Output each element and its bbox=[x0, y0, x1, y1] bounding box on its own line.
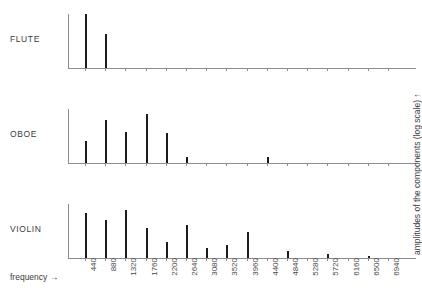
x-tick-label: 5720 bbox=[331, 258, 340, 276]
x-tick-label: 1320 bbox=[129, 258, 138, 276]
panel-label-flute: FLUTE bbox=[10, 34, 40, 44]
x-tick bbox=[85, 68, 86, 71]
x-tick-label: 880 bbox=[109, 258, 118, 271]
panel-label-violin: VIOLIN bbox=[10, 224, 41, 234]
x-tick bbox=[247, 163, 248, 166]
spectrum-bar bbox=[166, 133, 168, 163]
x-tick bbox=[267, 68, 268, 71]
x-tick bbox=[247, 68, 248, 71]
spectrum-bar bbox=[125, 210, 127, 258]
spectrum-bar bbox=[105, 220, 107, 258]
x-tick bbox=[388, 68, 389, 71]
x-tick bbox=[287, 163, 288, 166]
x-tick bbox=[125, 163, 126, 166]
spectrum-bar bbox=[186, 225, 188, 258]
x-tick bbox=[226, 163, 227, 166]
x-axis-flute bbox=[68, 68, 416, 69]
spectrum-bar bbox=[85, 14, 87, 68]
x-tick bbox=[388, 163, 389, 166]
x-tick bbox=[186, 163, 187, 166]
spectrum-panel-violin bbox=[68, 204, 416, 259]
x-tick bbox=[186, 68, 187, 71]
x-tick-label: 3960 bbox=[251, 258, 260, 276]
spectrum-bar bbox=[226, 245, 228, 259]
x-tick bbox=[166, 163, 167, 166]
x-tick bbox=[125, 68, 126, 71]
x-axis-oboe bbox=[68, 163, 416, 164]
spectrum-bar bbox=[146, 114, 148, 163]
x-tick-label: 3520 bbox=[230, 258, 239, 276]
x-tick-label: 6160 bbox=[352, 258, 361, 276]
y-axis-title: amplitudes of the components (log scale)… bbox=[401, 0, 415, 260]
spectrum-bar bbox=[206, 248, 208, 258]
x-tick-label: 1760 bbox=[150, 258, 159, 276]
x-tick bbox=[348, 163, 349, 166]
spectrum-bar bbox=[287, 251, 289, 258]
x-tick-label: 3080 bbox=[210, 258, 219, 276]
spectrum-panel-oboe bbox=[68, 109, 416, 164]
y-axis-title-text: amplitudes of the components (log scale)… bbox=[412, 93, 422, 255]
x-tick bbox=[307, 68, 308, 71]
spectrum-bar bbox=[105, 120, 107, 163]
x-tick bbox=[267, 163, 268, 166]
x-tick bbox=[146, 163, 147, 166]
x-tick-label: 4400 bbox=[271, 258, 280, 276]
spectrum-panel-flute bbox=[68, 14, 416, 69]
x-tick bbox=[206, 68, 207, 71]
spectrum-bar bbox=[166, 242, 168, 258]
x-tick bbox=[166, 68, 167, 71]
spectrum-bar bbox=[105, 34, 107, 68]
x-tick-label: 2640 bbox=[190, 258, 199, 276]
x-tick-label: 6500 bbox=[372, 258, 381, 276]
x-tick-label: 6940 bbox=[392, 258, 401, 276]
x-tick bbox=[105, 163, 106, 166]
spectrum-bar bbox=[267, 157, 269, 163]
x-tick bbox=[327, 163, 328, 166]
x-tick bbox=[368, 68, 369, 71]
y-axis-violin bbox=[68, 204, 69, 259]
x-tick bbox=[85, 163, 86, 166]
spectrum-bar bbox=[125, 132, 127, 163]
y-axis-oboe bbox=[68, 109, 69, 164]
x-tick-label: 4840 bbox=[291, 258, 300, 276]
x-tick bbox=[368, 163, 369, 166]
x-tick-label: 2200 bbox=[170, 258, 179, 276]
x-tick bbox=[146, 68, 147, 71]
x-tick bbox=[287, 68, 288, 71]
x-tick-label: 440 bbox=[89, 258, 98, 271]
y-axis-flute bbox=[68, 14, 69, 69]
spectrum-bar bbox=[186, 157, 188, 163]
x-tick bbox=[206, 163, 207, 166]
x-tick bbox=[307, 163, 308, 166]
panel-label-oboe: OBOE bbox=[10, 129, 37, 139]
x-tick bbox=[226, 68, 227, 71]
x-tick bbox=[348, 68, 349, 71]
spectrum-bar bbox=[146, 228, 148, 258]
spectrum-bar bbox=[85, 213, 87, 258]
x-tick-label: 5280 bbox=[311, 258, 320, 276]
x-tick-labels: 4408801320176022002640308035203960440048… bbox=[68, 258, 416, 304]
x-tick bbox=[327, 68, 328, 71]
x-tick bbox=[105, 68, 106, 71]
spectrum-bar bbox=[85, 141, 87, 163]
x-axis-title: frequency → bbox=[10, 272, 58, 282]
spectrum-bar bbox=[247, 232, 249, 258]
